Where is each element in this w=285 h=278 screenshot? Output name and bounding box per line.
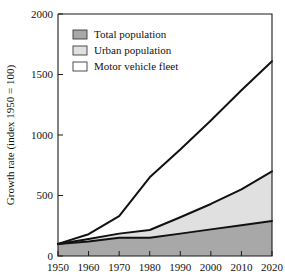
y-tick-label-1500: 1500 xyxy=(31,68,54,80)
x-tick-label-1950: 1950 xyxy=(47,261,70,273)
x-tick-label-1970: 1970 xyxy=(108,261,131,273)
y-tick-label-500: 500 xyxy=(37,189,54,201)
x-tick-label-2000: 2000 xyxy=(200,261,223,273)
x-tick-label-2020: 2020 xyxy=(261,261,284,273)
x-tick-label-1980: 1980 xyxy=(139,261,162,273)
legend-label-motor-vehicle-fleet: Motor vehicle fleet xyxy=(94,60,178,72)
x-tick-label-1960: 1960 xyxy=(78,261,101,273)
y-axis-title: Growth rate (index 1950 = 100) xyxy=(4,65,17,206)
y-tick-label-0: 0 xyxy=(48,250,54,262)
legend-swatch-urban-population xyxy=(73,46,87,55)
y-tick-label-1000: 1000 xyxy=(31,129,54,141)
growth-rate-area-chart: 0500100015002000 19501960197019801990200… xyxy=(0,0,285,278)
x-tick-label-1990: 1990 xyxy=(169,261,192,273)
legend-swatch-motor-vehicle-fleet xyxy=(73,62,87,71)
chart-figure: 0500100015002000 19501960197019801990200… xyxy=(0,0,285,278)
y-tick-label-2000: 2000 xyxy=(31,8,54,20)
legend-label-total-population: Total population xyxy=(94,28,167,40)
legend-swatch-total-population xyxy=(73,30,87,39)
legend-label-urban-population: Urban population xyxy=(94,44,172,56)
chart-legend: Total populationUrban populationMotor ve… xyxy=(67,23,217,77)
x-tick-label-2010: 2010 xyxy=(230,261,253,273)
